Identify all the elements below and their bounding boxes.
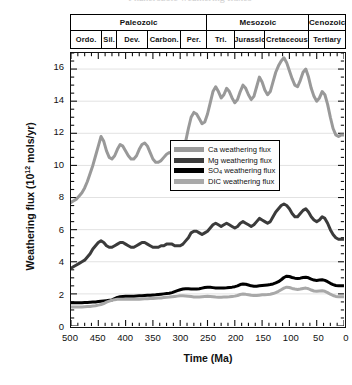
- series-line-mg-weathering-flux: [71, 204, 344, 268]
- y-axis-title-tail: mols/yr): [24, 122, 36, 166]
- y-tick-label-14: 14: [38, 94, 64, 105]
- y-axis-title-exponent: 12: [24, 166, 31, 174]
- legend-swatch-so4-weathering-flux: [174, 168, 204, 173]
- geo-period-dev: Dev.: [117, 31, 148, 48]
- legend-label-dic-weathering-flux: DIC weathering flux: [208, 177, 274, 186]
- legend-swatch-ca-weathering-flux: [174, 147, 204, 152]
- geo-period-sil: Sil.: [102, 31, 117, 48]
- y-tick-label-4: 4: [38, 256, 64, 267]
- y-tick-label-6: 6: [38, 224, 64, 235]
- legend-swatch-mg-weathering-flux: [174, 158, 204, 163]
- legend-item-dic-weathering-flux: DIC weathering flux: [174, 176, 275, 186]
- legend-item-mg-weathering-flux: Mg weathering flux: [174, 155, 275, 165]
- geologic-era-row: PaleozoicMesozoicCenozoic: [71, 15, 345, 31]
- geo-period-ordo: Ordo.: [71, 31, 102, 48]
- legend-label-ca-weathering-flux: Ca weathering flux: [208, 145, 271, 154]
- x-axis-title: Time (Ma): [70, 352, 346, 364]
- geo-period-tri: Tri.: [207, 31, 235, 48]
- y-tick-label-2: 2: [38, 289, 64, 300]
- y-axis-title: Weathering flux (1012 mols/yr): [24, 76, 37, 316]
- chart-legend: Ca weathering fluxMg weathering fluxSO4 …: [170, 140, 280, 191]
- legend-label-mg-weathering-flux: Mg weathering flux: [208, 156, 272, 165]
- y-tick-label-12: 12: [38, 126, 64, 137]
- legend-item-ca-weathering-flux: Ca weathering flux: [174, 145, 275, 155]
- geo-period-per: Per.: [181, 31, 207, 48]
- geologic-period-row: Ordo.Sil.Dev.Carbon.Per.Tri.JurassicCret…: [71, 31, 345, 48]
- y-axis-title-base: Weathering flux (10: [24, 174, 36, 271]
- legend-item-so4-weathering-flux: SO4 weathering flux: [174, 166, 275, 176]
- figure-root: Phanerozoic weathering fluxes PaleozoicM…: [0, 0, 352, 385]
- geo-era-cenozoic: Cenozoic: [309, 15, 345, 30]
- series-line-dic-weathering-flux: [71, 287, 344, 307]
- geo-era-mesozoic: Mesozoic: [207, 15, 309, 30]
- y-tick-label-16: 16: [38, 61, 64, 72]
- x-tick-label-0: 0: [329, 332, 352, 343]
- legend-swatch-dic-weathering-flux: [174, 179, 204, 184]
- top-caption: Phanerozoic weathering fluxes: [60, 0, 320, 4]
- geo-period-cretaceous: Cretaceous: [265, 31, 309, 48]
- geo-period-carbon: Carbon.: [148, 31, 181, 48]
- y-tick-label-8: 8: [38, 191, 64, 202]
- y-tick-label-10: 10: [38, 159, 64, 170]
- y-tick-label-0: 0: [38, 321, 64, 332]
- legend-label-so4-weathering-flux: SO4 weathering flux: [208, 166, 275, 176]
- geo-period-jurassic: Jurassic: [235, 31, 265, 48]
- geologic-timescale: PaleozoicMesozoicCenozoic Ordo.Sil.Dev.C…: [70, 14, 346, 49]
- geo-period-tertiary: Tertiary: [309, 31, 345, 48]
- geo-era-paleozoic: Paleozoic: [71, 15, 207, 30]
